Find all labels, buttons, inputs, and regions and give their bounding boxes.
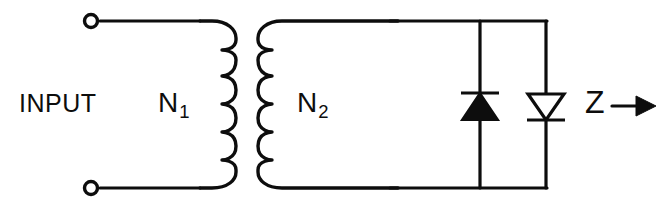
input-terminal-bottom-icon[interactable]: [85, 182, 98, 195]
left-diode-triangle-filled: [462, 93, 498, 120]
primary-turns-subscript: 1: [178, 101, 189, 122]
input-terminal-top-icon[interactable]: [85, 15, 98, 28]
right-diode-triangle-open: [528, 94, 564, 120]
primary-turns-label: N1: [158, 89, 190, 117]
secondary-turns-letter: N: [297, 87, 317, 118]
circuit-diagram: INPUT N1 N2 Z: [0, 0, 672, 212]
primary-turns-letter: N: [158, 87, 178, 118]
primary-coil-n1: [200, 21, 236, 188]
input-label: INPUT: [19, 91, 97, 116]
secondary-turns-subscript: 2: [317, 101, 328, 122]
schematic-canvas: [0, 0, 672, 212]
impedance-label: Z: [585, 86, 605, 118]
impedance-arrow-head-icon: [636, 96, 656, 116]
secondary-turns-label: N2: [297, 89, 329, 117]
